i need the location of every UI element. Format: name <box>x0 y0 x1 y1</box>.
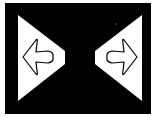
arrow-panel <box>0 0 155 118</box>
speck <box>115 23 117 25</box>
